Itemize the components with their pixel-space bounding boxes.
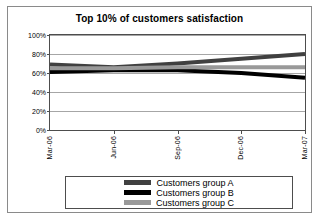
plot-area: 0%20%40%60%80%100% Mar-06Jun-06Sep-06Dec… [49, 34, 306, 131]
legend-item[interactable]: Customers group A [124, 178, 233, 188]
series-lines [50, 35, 305, 130]
x-tick-label: Mar-06 [46, 136, 53, 159]
y-tick-label: 60% [32, 70, 46, 77]
x-tick-mark [114, 130, 115, 134]
y-tick-label: 100% [28, 32, 46, 39]
legend-swatch-icon [124, 190, 151, 195]
chart-frame: Top 10% of customers satisfaction 0%20%4… [7, 6, 312, 213]
x-tick-mark [305, 130, 306, 134]
legend-item[interactable]: Customers group C [124, 198, 234, 208]
y-tick-label: 0% [36, 127, 46, 134]
x-tick-label: Mar-07 [301, 136, 308, 159]
y-tick-label: 40% [32, 89, 46, 96]
x-tick-mark [178, 130, 179, 134]
x-tick-mark [241, 130, 242, 134]
legend-swatch-icon [124, 180, 151, 185]
legend-label: Customers group C [156, 198, 234, 208]
legend-label: Customers group B [156, 188, 234, 198]
x-tick-label: Jun-06 [110, 136, 117, 159]
x-tick-label: Dec-06 [237, 136, 244, 160]
x-tick-label: Sep-06 [174, 136, 181, 160]
y-tick-label: 20% [32, 108, 46, 115]
y-tick-mark [47, 130, 50, 131]
series-line-customers-group-c [50, 67, 305, 68]
chart-title: Top 10% of customers satisfaction [8, 13, 311, 24]
series-line-customers-group-b [50, 70, 305, 78]
y-tick-label: 80% [32, 51, 46, 58]
legend-label: Customers group A [156, 178, 233, 188]
legend-item[interactable]: Customers group B [124, 188, 234, 198]
chart-legend: Customers group ACustomers group BCustom… [65, 176, 293, 209]
legend-swatch-icon [124, 200, 151, 205]
